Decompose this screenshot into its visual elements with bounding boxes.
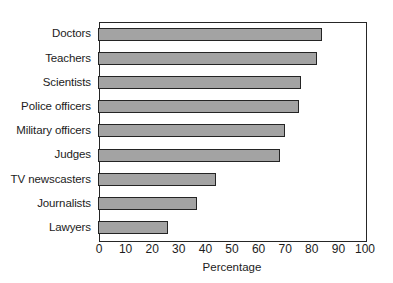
bar-scientists [98,76,302,89]
x-tick-label: 80 [305,243,318,255]
bar-judges [98,149,280,162]
bar-row [99,70,365,94]
bar-lawyers [98,221,169,234]
bar-teachers [98,52,318,65]
bar-tv-newscasters [98,173,217,186]
bar-row [99,216,365,240]
x-tick-label: 70 [279,243,292,255]
category-label: Teachers [0,46,95,70]
bar-police-officers [98,100,299,113]
bar-doctors [98,28,323,41]
bar-row [99,192,365,216]
category-axis-labels: Doctors Teachers Scientists Police offic… [0,22,95,240]
category-label: Doctors [0,22,95,46]
category-label: Lawyers [0,216,95,240]
x-tick-label: 100 [355,243,375,255]
category-label: TV newscasters [0,167,95,191]
x-tick-label: 30 [172,243,185,255]
category-label: Journalists [0,192,95,216]
x-tick-label: 0 [96,243,103,255]
bar-chart: Doctors Teachers Scientists Police offic… [0,0,393,283]
bar-journalists [98,197,198,210]
x-tick-label: 40 [199,243,212,255]
x-tick-label: 60 [252,243,265,255]
bar-military-officers [98,124,286,137]
x-tick-label: 50 [225,243,238,255]
x-axis-tick-labels: 0 10 20 30 40 50 60 70 80 90 100 [99,243,365,259]
bar-row [99,95,365,119]
bar-row [99,46,365,70]
bar-row [99,119,365,143]
x-tick-label: 20 [146,243,159,255]
category-label: Scientists [0,70,95,94]
category-label: Police officers [0,95,95,119]
bars-layer [99,22,365,240]
category-label: Judges [0,143,95,167]
x-axis-title: Percentage [99,262,365,274]
category-label: Military officers [0,119,95,143]
x-tick-label: 90 [332,243,345,255]
x-tick-label: 10 [119,243,132,255]
bar-row [99,143,365,167]
bar-row [99,22,365,46]
bar-row [99,167,365,191]
